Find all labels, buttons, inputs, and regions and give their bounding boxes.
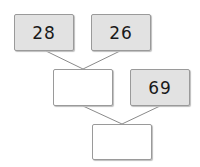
box-top-right: 26 [91,14,151,51]
box-value: 69 [148,78,172,98]
box-value: 26 [109,23,133,43]
box-bottom-answer[interactable] [92,124,152,160]
box-top-left: 28 [14,14,74,51]
box-middle-left-answer[interactable] [53,69,113,106]
box-value: 28 [32,23,56,43]
box-middle-right: 69 [130,69,190,106]
